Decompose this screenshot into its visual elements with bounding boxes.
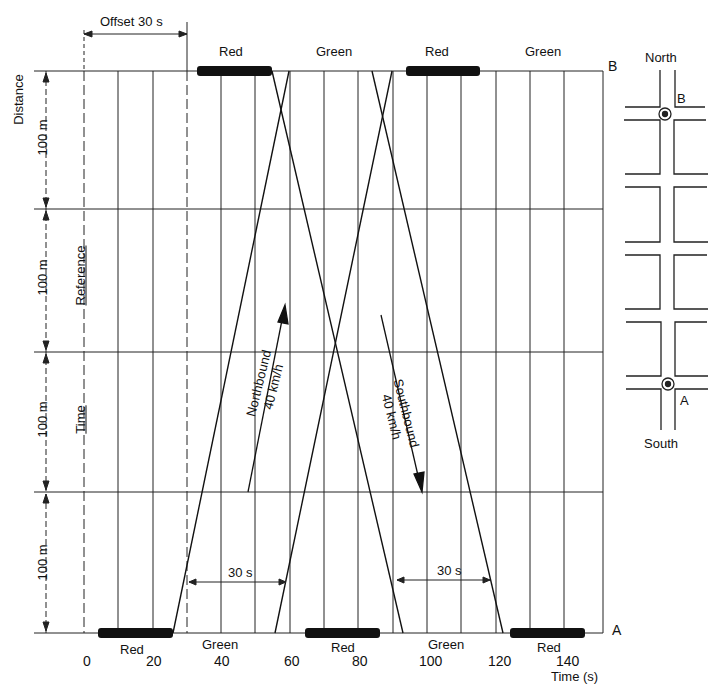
y-segment-label: 100 m [35,108,50,168]
northbound-label: Northbound 40 km/h [237,323,295,447]
northbound-bandwidth-label: 30 s [228,565,253,580]
x-tick: 140 [556,653,579,669]
reference-label: Reference [73,236,88,316]
x-tick: 80 [352,653,368,669]
y-segment-label: 100 m [35,533,50,593]
x-tick: 40 [214,653,230,669]
map-north-label: North [645,50,677,65]
time-label: Time [73,390,88,450]
x-tick: 120 [488,653,511,669]
y-segment-label: 100 m [35,390,50,450]
y-segment-label: 100 m [35,248,50,308]
map-south-label: South [644,436,678,451]
signal-a-phase-green-1: Green [202,637,238,652]
signal-b-phase-green-1: Green [316,44,352,59]
map-intersection-b: B [677,91,686,106]
signal-b-phase-green-2: Green [525,44,561,59]
signal-a-label: A [612,622,621,638]
signal-b-phase-red-2: Red [425,44,449,59]
southbound-bandwidth-label: 30 s [437,563,462,578]
map-intersection-a: A [680,393,689,408]
y-axis-label: Distance [11,70,26,130]
x-axis-label: Time (s) [551,669,598,684]
x-tick: 60 [284,653,300,669]
x-tick: 20 [146,653,162,669]
x-tick: 100 [419,653,442,669]
x-tick: 0 [83,653,91,669]
signal-a-phase-red-1: Red [120,642,144,657]
signal-a-phase-green-2: Green [428,637,464,652]
signal-b-phase-red-1: Red [219,44,243,59]
southbound-label: Southbound 40 km/h [370,353,428,477]
signal-b-label: B [608,58,617,74]
